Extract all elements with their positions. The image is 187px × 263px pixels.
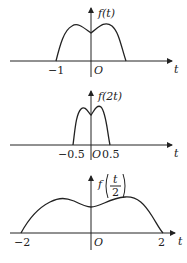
curve-f-t-half <box>21 197 163 233</box>
tick-label-neg2: −2 <box>14 236 30 249</box>
panel-f-t-half: f t 2 t −2 O 2 <box>10 173 183 250</box>
t-axis-label: t <box>174 147 179 160</box>
scaling-diagram: f(t) t O −1 f(2t) t −0.5 O 0.5 f t 2 t −… <box>0 0 187 263</box>
label-den: 2 <box>112 186 119 199</box>
origin-label: O <box>92 148 101 161</box>
left-paren <box>106 174 108 198</box>
label-f-2t: f(2t) <box>97 90 122 103</box>
label-num: t <box>113 173 118 186</box>
origin-label: O <box>94 236 103 249</box>
tick-label-neg1: −1 <box>48 64 64 77</box>
origin-label: O <box>94 64 103 77</box>
tick-label-05: 0.5 <box>102 148 120 161</box>
t-axis-label: t <box>174 63 179 76</box>
panel-f-t: f(t) t O −1 <box>10 7 179 77</box>
panel-f-2t: f(2t) t −0.5 O 0.5 <box>10 90 179 161</box>
label-f-t: f(t) <box>97 7 115 20</box>
tick-label-neg05: −0.5 <box>58 148 85 161</box>
right-paren <box>123 174 125 198</box>
t-axis-label: t <box>178 235 183 248</box>
label-f-prefix: f <box>97 178 104 191</box>
tick-label-2: 2 <box>158 236 165 249</box>
